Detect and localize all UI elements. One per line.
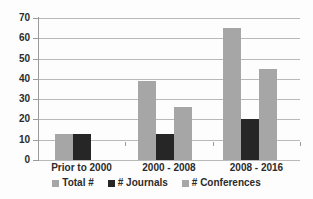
bar-2008-2016-total: [223, 28, 241, 160]
chart-legend: Total # # Journals # Conferences: [0, 178, 313, 188]
legend-label-journals: # Journals: [118, 178, 168, 188]
y-axis-label-40: 40: [6, 74, 30, 84]
x-axis-separator-4: [300, 142, 301, 146]
gridline-0: [38, 160, 300, 161]
y-axis-label-10: 10: [6, 135, 30, 145]
x-axis-label-prior-to-2000: Prior to 2000: [38, 163, 125, 173]
x-axis-separator-2: [125, 142, 126, 146]
plot-area: [38, 18, 300, 160]
legend-label-conferences: # Conferences: [192, 178, 261, 188]
y-axis-label-30: 30: [6, 94, 30, 104]
y-tick-10: [33, 140, 38, 141]
y-tick-70: [33, 18, 38, 19]
y-tick-50: [33, 59, 38, 60]
y-axis-label-50: 50: [6, 54, 30, 64]
x-axis-label-2000-2008: 2000 - 2008: [125, 163, 213, 173]
y-tick-30: [33, 99, 38, 100]
bar-chart: 70 60 50 40 30 20 10 0 Prior to 2000 200…: [0, 0, 313, 199]
legend-swatch-total-icon: [52, 180, 59, 187]
y-axis-label-20: 20: [6, 114, 30, 124]
gridline-70: [38, 18, 300, 19]
gridline-60: [38, 38, 300, 39]
y-axis-label-60: 60: [6, 33, 30, 43]
y-tick-40: [33, 79, 38, 80]
y-axis-label-0: 0: [6, 155, 30, 165]
y-tick-20: [33, 119, 38, 120]
bar-2000-2008-total: [138, 81, 156, 160]
bar-2008-2016-conferences: [259, 69, 277, 160]
legend-swatch-journals-icon: [108, 180, 115, 187]
bar-2000-2008-journals: [156, 134, 174, 160]
x-axis-separator-3: [213, 142, 214, 146]
bar-prior-to-2000-total: [55, 134, 73, 160]
legend-item-conferences: # Conferences: [182, 178, 261, 188]
x-axis-label-2008-2016: 2008 - 2016: [213, 163, 300, 173]
y-axis-line: [38, 17, 39, 161]
y-axis-label-70: 70: [6, 13, 30, 23]
bar-2008-2016-journals: [241, 119, 259, 160]
y-tick-60: [33, 38, 38, 39]
legend-item-journals: # Journals: [108, 178, 168, 188]
gridline-50: [38, 59, 300, 60]
legend-swatch-conferences-icon: [182, 180, 189, 187]
x-axis-separator-1: [38, 142, 39, 146]
bar-prior-to-2000-journals: [73, 134, 91, 160]
legend-label-total: Total #: [62, 178, 93, 188]
y-tick-0: [33, 160, 38, 161]
legend-item-total: Total #: [52, 178, 93, 188]
bar-2000-2008-conferences: [174, 107, 192, 160]
